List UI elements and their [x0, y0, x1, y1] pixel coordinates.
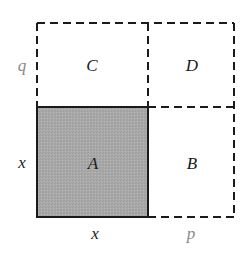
- region-label-b: B: [187, 154, 198, 173]
- side-label-q: q: [18, 56, 27, 75]
- region-label-a: A: [87, 154, 99, 173]
- completing-square-diagram: C D A B q x x p: [0, 0, 250, 259]
- region-label-c: C: [86, 56, 98, 75]
- side-label-x-bottom: x: [90, 224, 99, 243]
- region-label-d: D: [185, 56, 199, 75]
- side-label-x-left: x: [17, 153, 26, 172]
- side-label-p: p: [186, 224, 196, 243]
